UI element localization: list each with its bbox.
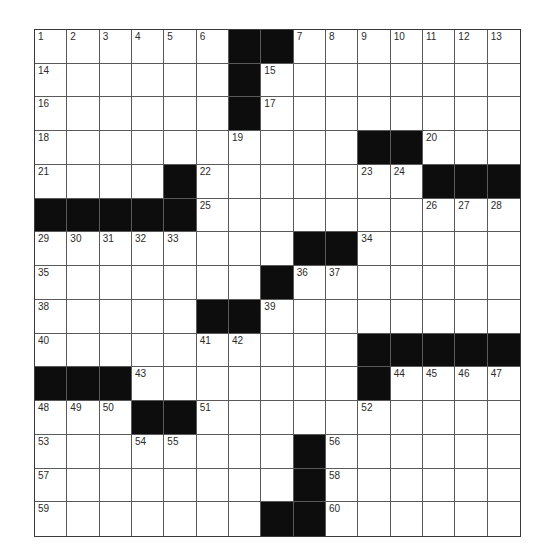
grid-cell[interactable] — [132, 64, 164, 98]
grid-cell[interactable]: 23 — [358, 165, 390, 199]
grid-cell[interactable]: 49 — [67, 401, 99, 435]
grid-cell[interactable]: 3 — [100, 30, 132, 64]
grid-cell[interactable] — [423, 502, 455, 536]
grid-cell[interactable] — [261, 131, 293, 165]
grid-cell[interactable] — [229, 165, 261, 199]
grid-cell[interactable] — [488, 131, 520, 165]
grid-cell[interactable]: 32 — [132, 232, 164, 266]
grid-cell[interactable] — [326, 367, 358, 401]
grid-cell[interactable]: 30 — [67, 232, 99, 266]
grid-cell[interactable]: 48 — [35, 401, 67, 435]
grid-cell[interactable]: 5 — [164, 30, 196, 64]
grid-cell[interactable]: 51 — [197, 401, 229, 435]
grid-cell[interactable] — [294, 165, 326, 199]
grid-cell[interactable] — [488, 64, 520, 98]
grid-cell[interactable]: 55 — [164, 435, 196, 469]
grid-cell[interactable] — [100, 502, 132, 536]
grid-cell[interactable] — [67, 469, 99, 503]
grid-cell[interactable]: 10 — [391, 30, 423, 64]
grid-cell[interactable]: 41 — [197, 334, 229, 368]
grid-cell[interactable] — [326, 401, 358, 435]
grid-cell[interactable] — [455, 469, 487, 503]
grid-cell[interactable] — [132, 266, 164, 300]
grid-cell[interactable] — [488, 435, 520, 469]
grid-cell[interactable]: 58 — [326, 469, 358, 503]
grid-cell[interactable] — [164, 502, 196, 536]
grid-cell[interactable]: 1 — [35, 30, 67, 64]
grid-cell[interactable] — [294, 401, 326, 435]
grid-cell[interactable] — [197, 266, 229, 300]
grid-cell[interactable] — [488, 232, 520, 266]
grid-cell[interactable] — [488, 97, 520, 131]
grid-cell[interactable]: 47 — [488, 367, 520, 401]
grid-cell[interactable]: 43 — [132, 367, 164, 401]
grid-cell[interactable] — [455, 401, 487, 435]
grid-cell[interactable]: 6 — [197, 30, 229, 64]
grid-cell[interactable]: 12 — [455, 30, 487, 64]
grid-cell[interactable]: 21 — [35, 165, 67, 199]
grid-cell[interactable] — [132, 97, 164, 131]
grid-cell[interactable] — [100, 266, 132, 300]
grid-cell[interactable]: 44 — [391, 367, 423, 401]
grid-cell[interactable] — [261, 469, 293, 503]
grid-cell[interactable] — [455, 266, 487, 300]
grid-cell[interactable] — [391, 266, 423, 300]
grid-cell[interactable] — [261, 232, 293, 266]
grid-cell[interactable] — [261, 435, 293, 469]
grid-cell[interactable] — [100, 469, 132, 503]
grid-cell[interactable] — [261, 367, 293, 401]
grid-cell[interactable] — [423, 64, 455, 98]
grid-cell[interactable]: 36 — [294, 266, 326, 300]
grid-cell[interactable] — [455, 131, 487, 165]
grid-cell[interactable]: 59 — [35, 502, 67, 536]
grid-cell[interactable] — [197, 64, 229, 98]
grid-cell[interactable] — [197, 232, 229, 266]
grid-cell[interactable] — [67, 300, 99, 334]
grid-cell[interactable]: 11 — [423, 30, 455, 64]
grid-cell[interactable]: 20 — [423, 131, 455, 165]
grid-cell[interactable] — [358, 266, 390, 300]
grid-cell[interactable]: 9 — [358, 30, 390, 64]
grid-cell[interactable]: 46 — [455, 367, 487, 401]
grid-cell[interactable] — [294, 334, 326, 368]
grid-cell[interactable]: 35 — [35, 266, 67, 300]
grid-cell[interactable] — [229, 502, 261, 536]
grid-cell[interactable]: 4 — [132, 30, 164, 64]
grid-cell[interactable] — [391, 469, 423, 503]
grid-cell[interactable]: 54 — [132, 435, 164, 469]
grid-cell[interactable] — [488, 401, 520, 435]
grid-cell[interactable] — [132, 131, 164, 165]
grid-cell[interactable] — [67, 266, 99, 300]
grid-cell[interactable]: 52 — [358, 401, 390, 435]
grid-cell[interactable] — [67, 435, 99, 469]
grid-cell[interactable]: 56 — [326, 435, 358, 469]
grid-cell[interactable]: 24 — [391, 165, 423, 199]
grid-cell[interactable] — [100, 165, 132, 199]
grid-cell[interactable] — [261, 199, 293, 233]
grid-cell[interactable] — [100, 334, 132, 368]
grid-cell[interactable] — [164, 334, 196, 368]
grid-cell[interactable] — [261, 401, 293, 435]
grid-cell[interactable] — [100, 435, 132, 469]
grid-cell[interactable]: 19 — [229, 131, 261, 165]
grid-cell[interactable] — [455, 435, 487, 469]
grid-cell[interactable] — [229, 469, 261, 503]
grid-cell[interactable] — [67, 64, 99, 98]
grid-cell[interactable] — [326, 131, 358, 165]
grid-cell[interactable] — [229, 232, 261, 266]
grid-cell[interactable] — [326, 64, 358, 98]
grid-cell[interactable] — [455, 232, 487, 266]
grid-cell[interactable] — [164, 131, 196, 165]
grid-cell[interactable] — [294, 64, 326, 98]
grid-cell[interactable] — [455, 97, 487, 131]
grid-cell[interactable] — [132, 300, 164, 334]
grid-cell[interactable] — [358, 435, 390, 469]
grid-cell[interactable]: 22 — [197, 165, 229, 199]
grid-cell[interactable]: 37 — [326, 266, 358, 300]
grid-cell[interactable] — [391, 502, 423, 536]
grid-cell[interactable]: 42 — [229, 334, 261, 368]
grid-cell[interactable] — [100, 300, 132, 334]
grid-cell[interactable] — [423, 401, 455, 435]
grid-cell[interactable]: 18 — [35, 131, 67, 165]
grid-cell[interactable] — [294, 97, 326, 131]
